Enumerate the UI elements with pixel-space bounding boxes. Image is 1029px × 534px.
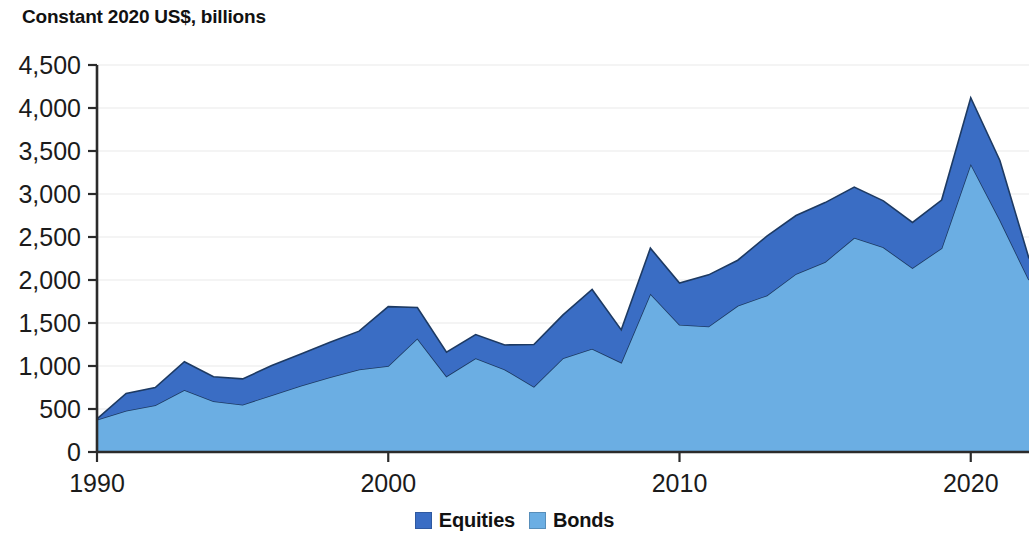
- legend-swatch-icon: [529, 512, 546, 529]
- y-tick-label: 1,500: [18, 309, 81, 337]
- chart-legend: EquitiesBonds: [0, 509, 1029, 532]
- y-tick-label: 4,000: [18, 94, 81, 122]
- legend-swatch-icon: [415, 512, 432, 529]
- y-tick-label: 2,500: [18, 223, 81, 251]
- x-tick-label: 2000: [360, 469, 416, 497]
- x-tick-label: 1990: [69, 469, 125, 497]
- x-tick-label: 2010: [652, 469, 708, 497]
- y-tick-label: 1,000: [18, 352, 81, 380]
- y-tick-label: 0: [67, 438, 81, 466]
- x-axis-tick-labels: 1990200020102020: [69, 469, 998, 497]
- x-tick-label: 2020: [943, 469, 999, 497]
- y-tick-label: 4,500: [18, 51, 81, 79]
- legend-label: Equities: [439, 509, 515, 532]
- chart-figure: Constant 2020 US$, billions 05001,0001,5…: [0, 0, 1029, 534]
- legend-label: Bonds: [553, 509, 614, 532]
- y-tick-label: 3,000: [18, 180, 81, 208]
- y-tick-label: 2,000: [18, 266, 81, 294]
- y-axis-tick-labels: 05001,0001,5002,0002,5003,0003,5004,0004…: [18, 51, 81, 466]
- stacked-area-chart: 05001,0001,5002,0002,5003,0003,5004,0004…: [0, 0, 1029, 534]
- y-tick-label: 500: [39, 395, 81, 423]
- legend-item-bonds[interactable]: Bonds: [529, 509, 614, 532]
- y-tick-label: 3,500: [18, 137, 81, 165]
- legend-item-equities[interactable]: Equities: [415, 509, 515, 532]
